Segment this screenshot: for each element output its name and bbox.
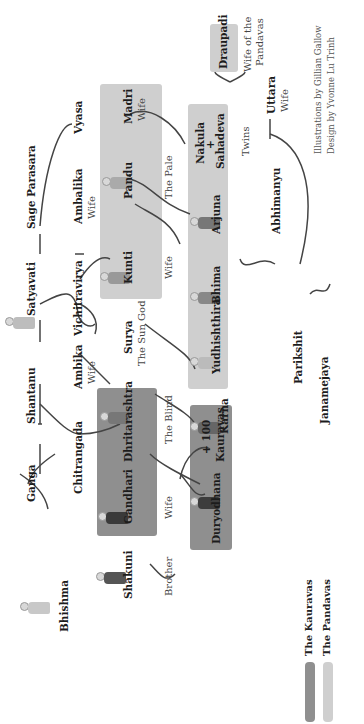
name-bhishma: Bhishma [58, 580, 70, 632]
descriptor-shakuni: Brother [163, 557, 174, 596]
descriptor-ambika: Wife [86, 361, 97, 384]
name-shantanu: Shantanu [25, 367, 37, 424]
credit-illustrations: Illustrations by Gillian Gallow [312, 25, 324, 154]
descriptor-uttara: Wife [279, 89, 290, 112]
descriptor-ambalika: Wife [86, 196, 97, 219]
legend-swatch-kauravas [305, 662, 315, 722]
name-ambika: Ambika [72, 344, 84, 389]
figure-satyavati [5, 317, 35, 329]
descriptor-draupadi-line1: Wife of the [242, 17, 253, 72]
name-sage-parasara: Sage Parasara [25, 145, 37, 229]
name-ganga: Ganga [25, 464, 37, 502]
name-parikshit: Parikshit [292, 330, 304, 384]
name-hundred-kauravas-line1: + 100 [200, 420, 212, 454]
name-kunti: Kunti [122, 251, 134, 284]
name-madri: Madri [122, 89, 134, 124]
name-sahadeva: Sahadeva [214, 113, 226, 169]
name-shakuni: Shakuni [122, 550, 134, 599]
name-pandu: Pandu [122, 162, 134, 199]
name-satyavati: Satyavati [25, 262, 37, 316]
name-gandhari: Gandhari [122, 469, 134, 524]
name-bhima: Bhima [210, 266, 222, 304]
credit-design: Design by Yvonne Lu Trinh [325, 37, 337, 154]
descriptor-madri: Wife [136, 98, 147, 121]
name-surya: Surya [122, 320, 134, 354]
figure-bhishma [20, 602, 50, 614]
name-vyasa: Vyasa [72, 101, 84, 134]
name-vichitravirya: Vichitravirya [72, 260, 84, 336]
descriptor-dhritarashtra: The Blind [163, 395, 174, 444]
descriptor-surya: The Sun God [136, 300, 147, 366]
descriptor-kunti: Wife [163, 256, 174, 279]
name-karna: Karna [218, 398, 230, 434]
name-abhimanyu: Abhimanyu [270, 168, 282, 234]
legend-label-kauravas: The Kauravas [303, 579, 314, 656]
descriptor-pandu: The Pale [163, 155, 174, 199]
name-yudhishthira: Yudhishthira [210, 298, 222, 374]
legend-label-pandavas: The Pandavas [321, 579, 332, 656]
descriptor-gandhari: Wife [163, 496, 174, 519]
name-uttara: Uttara [265, 76, 277, 114]
name-chitrangada: Chitrangada [72, 421, 84, 494]
name-janamejaya: Janamejaya [318, 356, 330, 424]
name-draupadi: Draupadi [217, 14, 229, 69]
name-ambalika: Ambalika [72, 169, 84, 224]
name-duryodhana: Duryodhana [210, 472, 222, 544]
legend-swatch-pandavas [323, 662, 333, 722]
descriptor-draupadi-line2: Pandavas [254, 18, 265, 66]
name-dhritarashtra: Dhritarashtra [122, 381, 134, 462]
descriptor-twins: Twins [240, 126, 251, 156]
family-tree-diagram: Bhishma Ganga Shantanu Satyavati Sage Pa… [0, 0, 364, 724]
name-arjuna: Arjuna [210, 194, 222, 234]
